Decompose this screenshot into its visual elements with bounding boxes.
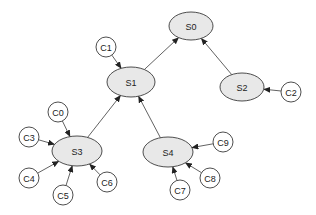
node-label: C4 <box>23 174 35 184</box>
node-label: S1 <box>125 78 136 88</box>
node-label: C1 <box>100 43 112 53</box>
edge-c9-to-s4 <box>192 144 213 148</box>
node-c1: C1 <box>96 37 116 57</box>
node-label: C0 <box>52 108 64 118</box>
node-s0: S0 <box>169 12 213 40</box>
node-label: S2 <box>236 83 247 93</box>
edge-s1-to-s0 <box>144 38 178 70</box>
node-label: C7 <box>174 186 186 196</box>
node-label: C5 <box>57 191 69 201</box>
edge-s2-to-s0 <box>201 38 231 74</box>
node-s3: S3 <box>52 136 102 166</box>
node-label: S3 <box>71 147 82 157</box>
node-c4: C4 <box>19 168 39 188</box>
network-diagram: S0S1S2S3S4C0C1C2C3C4C5C6C7C8C9 <box>0 0 316 215</box>
node-label: C2 <box>285 88 297 98</box>
edge-c5-to-s3 <box>66 166 72 186</box>
node-c6: C6 <box>97 172 117 192</box>
node-c5: C5 <box>53 185 73 205</box>
node-c3: C3 <box>19 127 39 147</box>
node-label: S0 <box>185 22 196 32</box>
node-c8: C8 <box>200 168 220 188</box>
node-label: C3 <box>23 133 35 143</box>
node-c9: C9 <box>213 132 233 152</box>
edge-s4-to-s1 <box>139 96 161 138</box>
node-label: C6 <box>101 178 113 188</box>
edge-c6-to-s3 <box>90 164 100 175</box>
edge-c2-to-s2 <box>264 89 281 91</box>
node-c0: C0 <box>48 102 68 122</box>
edge-s3-to-s1 <box>88 96 121 138</box>
edge-c3-to-s3 <box>39 140 55 145</box>
edge-c7-to-s4 <box>173 167 177 181</box>
edge-c8-to-s4 <box>185 163 201 173</box>
node-label: S4 <box>162 148 173 158</box>
nodes-layer: S0S1S2S3S4C0C1C2C3C4C5C6C7C8C9 <box>19 12 301 205</box>
node-label: C9 <box>217 138 229 148</box>
node-s2: S2 <box>220 73 264 101</box>
node-s1: S1 <box>107 67 155 97</box>
node-s4: S4 <box>143 137 193 167</box>
node-c2: C2 <box>281 82 301 102</box>
node-label: C8 <box>204 174 216 184</box>
edge-c4-to-s3 <box>38 161 59 173</box>
edge-c0-to-s3 <box>62 121 70 137</box>
edge-c1-to-s1 <box>112 55 121 68</box>
node-c7: C7 <box>170 180 190 200</box>
